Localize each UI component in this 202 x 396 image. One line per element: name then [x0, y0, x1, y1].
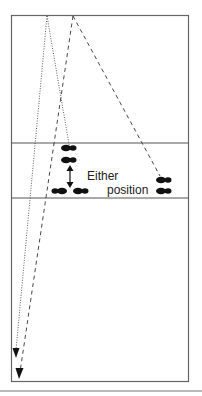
footprint-icon	[61, 145, 77, 151]
movement-path-dotted-right	[47, 16, 70, 150]
footprints-upper-pair	[61, 145, 77, 163]
footprint-icon	[52, 188, 68, 194]
annotation-position: position	[107, 184, 148, 197]
court-diagram	[0, 0, 202, 396]
footprint-icon	[156, 177, 172, 183]
footprint-icon	[156, 188, 172, 194]
arrowhead-icon	[16, 368, 24, 379]
movement-path-dashed-right	[73, 16, 160, 176]
double-arrow-icon	[67, 165, 74, 188]
footprints-right-pair	[156, 177, 172, 194]
arrowhead-icon	[13, 348, 20, 358]
footprint-icon	[61, 157, 77, 163]
footprint-icon	[73, 188, 89, 194]
footprints-lower-pair	[52, 188, 89, 194]
annotation-either: Either	[87, 170, 118, 183]
